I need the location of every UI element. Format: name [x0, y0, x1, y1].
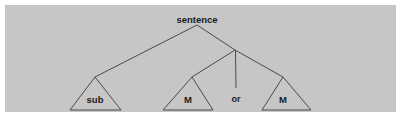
edge-junction-m2: [235, 50, 283, 77]
edge-junction-or: [236, 50, 237, 88]
edge-root-sub: [95, 25, 197, 77]
edge-root-junction: [197, 25, 235, 50]
edge-junction-m1: [192, 50, 235, 77]
node-label-m2: M: [279, 94, 287, 105]
node-label-m1: M: [184, 94, 192, 105]
node-label-sentence: sentence: [176, 14, 217, 25]
node-label-or: or: [232, 94, 241, 104]
node-label-sub: sub: [87, 94, 104, 105]
figure-container: sentence sub M or M: [0, 0, 401, 123]
